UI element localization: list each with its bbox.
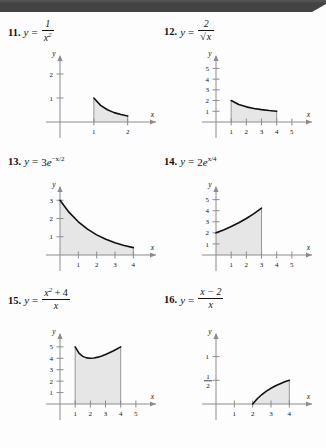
x-tick-label: 5 (290, 261, 294, 269)
equals-sign: = (32, 155, 38, 167)
fraction-denominator: x (52, 300, 60, 311)
x-axis-label: x (306, 110, 311, 119)
x-tick-label: 4 (275, 261, 279, 269)
problem-graph: 1234512345xy (26, 328, 158, 424)
graph-canvas: 1234123xy (26, 181, 158, 275)
y-axis-arrow-icon (57, 55, 62, 61)
problem-heading: 14.y=2ex/4 (164, 155, 217, 168)
fraction-numerator: x − 2 (198, 287, 223, 298)
problem-number: 15. (8, 295, 21, 306)
x-tick-label: 2 (89, 410, 93, 418)
equation-fraction: 2√x (198, 19, 214, 42)
y-axis-arrow-icon (213, 55, 218, 61)
x-axis-arrow-icon (150, 119, 156, 124)
y-axis-label: y (207, 50, 212, 58)
y-tick-label: 3 (206, 86, 210, 94)
problem-number: 14. (164, 156, 177, 167)
x-tick-label: 1 (233, 410, 237, 418)
equals-sign: = (188, 294, 194, 306)
x-axis-label: x (306, 392, 311, 401)
y-axis-label: y (51, 328, 56, 336)
problem-15: 15.y=x2 + 4x1234512345xy (8, 288, 71, 312)
header-bar-sheen (0, 0, 326, 4)
equation-lhs: y (180, 26, 185, 38)
y-tick-label: 1 (50, 389, 54, 397)
x-tick-label: 3 (104, 410, 108, 418)
graph-canvas: 1234121xy (182, 328, 314, 424)
x-tick-label: 4 (119, 410, 123, 418)
equals-sign: = (188, 155, 194, 167)
y-tick-label: 1 (50, 95, 54, 103)
y-tick-label: 3 (50, 197, 54, 205)
graph-canvas: 1212xy (26, 50, 158, 142)
problem-graph: 1234121xy (182, 328, 314, 424)
x-tick-label: 2 (95, 261, 99, 269)
x-tick-label: 5 (290, 128, 294, 136)
equation-expression: 3e−x/2 (41, 155, 64, 168)
graph-canvas: 1234512345xy (182, 50, 314, 142)
equation-lhs: y (24, 26, 29, 38)
y-tick-label: 1 (206, 353, 210, 361)
equals-sign: = (188, 26, 194, 38)
y-tick-label: 5 (206, 196, 210, 204)
y-axis-arrow-icon (57, 333, 62, 339)
problem-13: 13.y=3e−x/21234123xy (8, 155, 65, 168)
problem-list: 11.y=1x21212xy12.y=2√x1234512345xy13.y=3… (0, 12, 326, 448)
y-tick-label: 2 (50, 71, 54, 79)
x-axis-label: x (150, 392, 155, 401)
x-tick-label: 2 (245, 261, 249, 269)
shaded-region (216, 208, 262, 255)
x-tick-label: 5 (134, 410, 138, 418)
x-axis-arrow-icon (150, 401, 156, 406)
equals-sign: = (31, 26, 37, 38)
x-axis-label: x (150, 243, 155, 252)
page-header-bar (0, 0, 326, 12)
fraction-denominator: √x (198, 31, 214, 42)
x-axis-arrow-icon (306, 401, 312, 406)
problem-heading: 16.y=x − 2x (164, 288, 224, 311)
equation-lhs: y (24, 294, 29, 306)
problem-heading: 12.y=2√x (164, 20, 215, 43)
equation-fraction: x2 + 4x (42, 287, 70, 311)
y-axis-arrow-icon (213, 186, 218, 192)
problem-number: 16. (164, 294, 177, 305)
y-tick-label: 1 (206, 241, 210, 249)
fraction-numerator: 2 (202, 19, 211, 30)
x-tick-label: 4 (275, 128, 279, 136)
y-tick-label: 1 (206, 373, 210, 381)
x-tick-label: 1 (229, 128, 233, 136)
y-tick-label: 5 (206, 65, 210, 73)
fraction-denominator: x (207, 299, 215, 310)
y-tick-label: 2 (206, 229, 210, 237)
radical-icon: √x (200, 32, 212, 42)
equation-lhs: y (180, 155, 185, 167)
y-axis-label: y (51, 181, 56, 189)
x-axis-label: x (306, 243, 311, 252)
problem-graph: 1234123xy (26, 181, 158, 275)
problem-16: 16.y=x − 2x1234121xy (164, 288, 224, 311)
graph-canvas: 1234512345xy (26, 328, 158, 424)
equals-sign: = (32, 294, 38, 306)
x-tick-label: 1 (229, 261, 233, 269)
problem-heading: 15.y=x2 + 4x (8, 288, 71, 312)
x-tick-label: 3 (260, 128, 264, 136)
problem-14: 14.y=2ex/41234512345xy (164, 155, 217, 168)
x-tick-label: 3 (269, 410, 273, 418)
x-tick-label: 4 (288, 410, 292, 418)
shaded-region (60, 200, 133, 255)
y-axis-label: y (51, 50, 56, 58)
shaded-region (94, 98, 128, 122)
y-axis-label: y (207, 181, 212, 189)
problem-heading: 11.y=1x2 (8, 20, 55, 44)
y-tick-label: 5 (50, 343, 54, 351)
x-axis-label: x (150, 110, 155, 119)
x-tick-label: 1 (73, 410, 77, 418)
y-tick-label: 4 (206, 207, 210, 215)
x-tick-label: 1 (77, 261, 81, 269)
problem-number: 11. (8, 27, 21, 38)
y-tick-label: 2 (50, 215, 54, 223)
x-tick-label: 3 (113, 261, 117, 269)
y-tick-label: 1 (50, 233, 54, 241)
x-axis-arrow-icon (306, 119, 312, 124)
equation-lhs: y (180, 294, 185, 306)
